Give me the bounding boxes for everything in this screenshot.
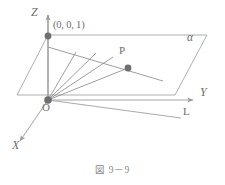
x-axis-label: X <box>12 139 19 151</box>
figure-caption: 図 9－9 <box>0 162 225 176</box>
line-l-label: L <box>183 106 190 117</box>
geometry-diagram <box>0 0 225 185</box>
plane-alpha-label: α <box>187 32 193 44</box>
point-001-label: (0, 0, 1) <box>53 20 84 31</box>
z-axis-label: Z <box>31 6 38 18</box>
figure-container: Z (0, 0, 1) α P Y O L X 図 9－9 <box>0 0 225 185</box>
point-001-dot <box>45 33 52 40</box>
plane-alpha-outline <box>17 35 207 95</box>
point-p-dot <box>125 65 132 72</box>
y-axis-label: Y <box>200 86 207 98</box>
ray-1 <box>48 52 76 100</box>
origin-label: O <box>42 102 50 113</box>
ray-2 <box>48 53 96 100</box>
line-l <box>48 100 181 118</box>
point-p-label: P <box>119 45 125 56</box>
line-through-point-p <box>48 47 163 81</box>
